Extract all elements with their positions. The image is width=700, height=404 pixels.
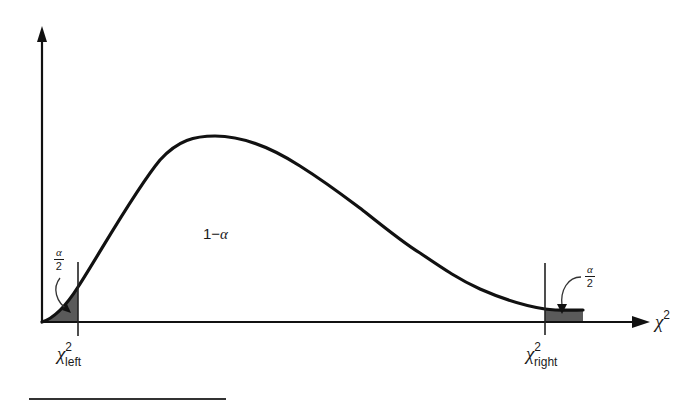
y-axis-arrow-icon — [37, 26, 47, 42]
right-tail-alpha-half: α 2 — [585, 264, 595, 289]
right-tail-pointer-arrow — [562, 277, 581, 306]
x-axis-arrow-icon — [632, 316, 650, 328]
right-critical-exponent: 2 — [534, 340, 541, 354]
left-tail-alpha-half: α 2 — [54, 247, 64, 272]
right-critical-value-label: χ2right — [526, 342, 557, 368]
footnote-divider — [29, 398, 226, 400]
left-critical-exponent: 2 — [65, 340, 72, 354]
left-critical-subscript: left — [65, 355, 81, 369]
central-area-alpha: α — [220, 226, 228, 242]
left-critical-value-label: χ2left — [57, 342, 81, 368]
left-tail-shaded-region — [42, 287, 78, 322]
central-area-label: 1−α — [203, 225, 228, 243]
right-tail-denominator: 2 — [587, 277, 593, 289]
left-tail-denominator: 2 — [56, 260, 62, 272]
right-critical-subscript: right — [534, 355, 557, 369]
right-tail-numerator: α — [585, 264, 595, 277]
x-axis-label-exponent: 2 — [663, 308, 670, 322]
right-tail-shaded-region — [545, 310, 583, 322]
central-area-prefix: 1− — [203, 225, 220, 242]
chi-square-density-curve — [42, 136, 583, 322]
chi-square-diagram — [0, 0, 700, 404]
x-axis-label: χ2 — [655, 310, 670, 333]
left-tail-numerator: α — [54, 247, 64, 260]
